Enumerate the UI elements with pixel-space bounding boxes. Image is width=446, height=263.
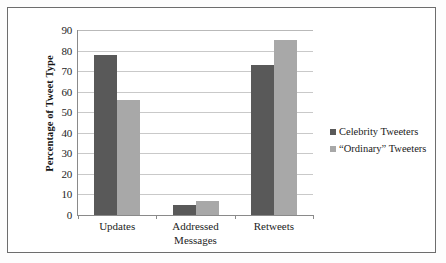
x-category-label-line: Updates	[99, 220, 135, 232]
legend-swatch-icon	[330, 146, 336, 152]
legend-label: Celebrity Tweeters	[339, 126, 418, 138]
x-category-label-line: Addressed	[172, 220, 218, 232]
legend-label: “Ordinary” Tweeters	[339, 143, 426, 155]
legend-swatch-icon	[330, 129, 336, 135]
bar	[94, 55, 117, 215]
legend-item[interactable]: Celebrity Tweeters	[330, 123, 442, 140]
legend-item[interactable]: “Ordinary” Tweeters	[330, 140, 442, 157]
bar-group	[173, 30, 219, 215]
y-tick-label: 60	[38, 87, 72, 98]
y-tick-label: 50	[38, 107, 72, 118]
y-tick-label: 20	[38, 169, 72, 180]
x-category-label-line: Messages	[148, 233, 244, 247]
x-category-label-line: Retweets	[254, 220, 294, 232]
x-axis-line	[77, 215, 314, 216]
bar	[117, 100, 140, 215]
y-axis-tick-labels: 9080706050403020100	[36, 8, 72, 263]
bar	[274, 40, 297, 215]
x-category-label: Retweets	[226, 219, 322, 233]
bar	[251, 65, 274, 215]
bar	[196, 201, 219, 215]
y-tick-label: 10	[38, 189, 72, 200]
bar	[173, 205, 196, 215]
chart-legend: Celebrity Tweeters“Ordinary” Tweeters	[330, 123, 442, 157]
x-axis-category-labels: UpdatesAddressedMessagesRetweets	[78, 219, 313, 263]
y-tick-label: 30	[38, 148, 72, 159]
y-tick-label: 90	[38, 25, 72, 36]
y-tick-label: 80	[38, 46, 72, 57]
y-tick-label: 40	[38, 128, 72, 139]
bar-group	[251, 30, 297, 215]
chart-frame: Percentage of Tweet Type 908070605040302…	[7, 7, 436, 253]
chart-figure: Percentage of Tweet Type 908070605040302…	[0, 0, 446, 263]
y-tick-label: 0	[38, 210, 72, 221]
bar-group	[94, 30, 140, 215]
y-tick-label: 70	[38, 66, 72, 77]
plot-area	[78, 30, 313, 215]
